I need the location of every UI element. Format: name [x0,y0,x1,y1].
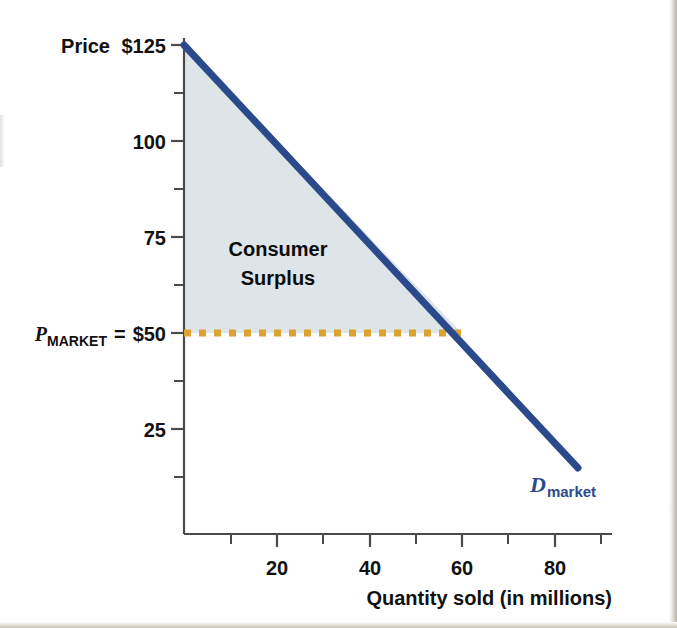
y-axis-title: Price [61,35,110,57]
x-axis-title: Quantity sold (in millions) [366,587,612,609]
demand-label-subscript: market [547,483,596,500]
x-tick-label-80: 80 [544,557,566,579]
consumer-surplus-label-line1: Consumer [229,238,328,260]
y-tick-label-100: 100 [133,131,166,153]
x-tick-label-60: 60 [451,557,473,579]
consumer-surplus-label-line2: Surplus [241,267,315,289]
x-axis-minor-ticks [231,534,601,544]
y-axis-major-ticks [171,45,184,429]
x-tick-label-20: 20 [266,557,288,579]
market-price-equals: = [114,323,126,345]
demand-label-symbol: D [529,472,546,497]
page-edge-bottom [0,622,677,628]
y-tick-label-25: 25 [144,419,166,441]
market-price-value: $50 [133,323,166,345]
x-tick-label-40: 40 [359,557,381,579]
page-edge-right [669,0,677,628]
consumer-surplus-chart: $125 100 75 25 Price PMARKET=$50 20 40 6… [0,0,677,628]
y-axis-minor-ticks [174,93,184,477]
market-price-label: PMARKET=$50 [34,323,166,349]
y-tick-label-75: 75 [144,227,166,249]
market-price-symbol: P [34,323,48,345]
y-tick-label-125: $125 [122,35,167,57]
figure-page: $125 100 75 25 Price PMARKET=$50 20 40 6… [0,0,677,628]
demand-curve-label: Dmarket [529,472,596,500]
market-price-subscript: MARKET [47,333,107,349]
page-edge-left-artifact [0,115,5,167]
